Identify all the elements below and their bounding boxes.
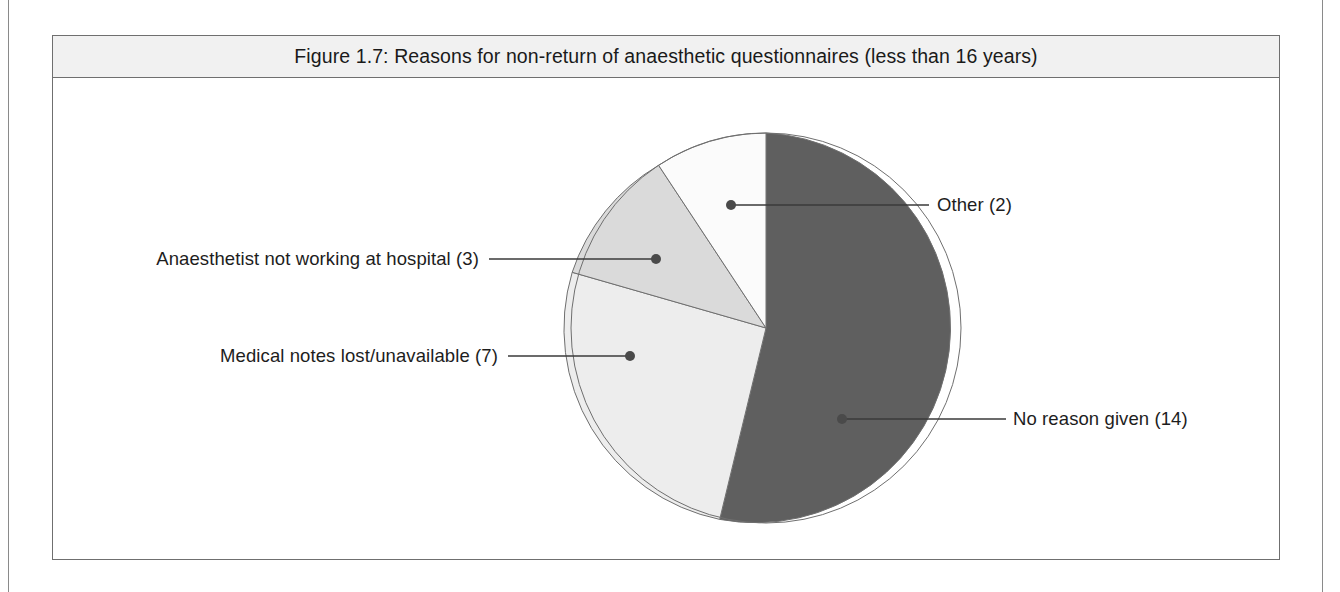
- pie-label-other: Other (2): [937, 194, 1012, 216]
- pie-label-anaesthetist: Anaesthetist not working at hospital (3): [156, 248, 479, 270]
- page-rule-right: [1322, 0, 1323, 592]
- leader-dot-medical-notes: [625, 351, 635, 361]
- figure-title: Figure 1.7: Reasons for non-return of an…: [294, 45, 1037, 68]
- figure-header: Figure 1.7: Reasons for non-return of an…: [53, 36, 1279, 78]
- figure-frame: Figure 1.7: Reasons for non-return of an…: [52, 35, 1280, 560]
- pie-label-no-reason-given: No reason given (14): [1013, 408, 1188, 430]
- leader-dot-no-reason-given: [837, 414, 847, 424]
- pie-chart: Other (2) No reason given (14) Anaesthet…: [53, 78, 1279, 560]
- pie-label-medical-notes: Medical notes lost/unavailable (7): [220, 345, 498, 367]
- leader-dot-anaesthetist: [651, 254, 661, 264]
- pie-chart-svg: [53, 78, 1281, 560]
- page-rule-left: [8, 0, 9, 592]
- leader-dot-other: [726, 200, 736, 210]
